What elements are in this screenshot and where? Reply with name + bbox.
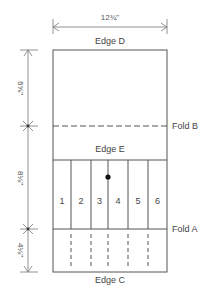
edge-d-label: Edge D <box>95 36 126 46</box>
fold-b-label: Fold B <box>172 121 198 131</box>
height-bottom-label: 4⅛" <box>16 243 25 257</box>
center-marker-dot <box>105 174 110 179</box>
panel-4-label: 4 <box>115 196 120 206</box>
panel-dividers <box>71 160 148 229</box>
edge-c-label: Edge C <box>95 275 126 285</box>
panel-dashed-guides <box>71 234 148 267</box>
height-middle-label: 8⅛" <box>16 171 25 185</box>
sheet-outline <box>53 50 167 272</box>
panel-1-label: 1 <box>59 196 64 206</box>
edge-e-label: Edge E <box>95 144 125 154</box>
width-label: 12¾" <box>101 13 120 22</box>
width-dimension: 12¾" <box>53 13 167 34</box>
height-dimension: 6⅝" 8⅛" 4⅛" <box>16 50 38 272</box>
height-top-label: 6⅝" <box>16 81 25 95</box>
panel-numbers: 1 2 3 4 5 6 <box>59 196 160 206</box>
panel-6-label: 6 <box>155 196 160 206</box>
fold-diagram: 12¾" Edge D Fold B Edge E 1 2 3 4 5 6 Fo… <box>0 0 210 293</box>
panel-3-label: 3 <box>97 196 102 206</box>
panel-5-label: 5 <box>135 196 140 206</box>
panel-2-label: 2 <box>78 196 83 206</box>
fold-a-label: Fold A <box>172 224 198 234</box>
